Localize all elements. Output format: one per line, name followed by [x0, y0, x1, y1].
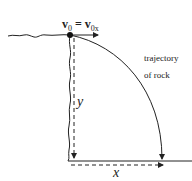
projectile-diagram: v0 = v0x trajectory of rock y x: [0, 0, 192, 181]
cliff-face: [68, 36, 71, 161]
velocity-label: v0 = v0x: [62, 17, 99, 33]
y-label: y: [77, 94, 83, 110]
cliff-top-ground: [8, 35, 70, 37]
trajectory-label-line2: of rock: [144, 70, 170, 80]
trajectory-label-line1: trajectory: [144, 53, 178, 63]
x-label: x: [113, 165, 119, 181]
